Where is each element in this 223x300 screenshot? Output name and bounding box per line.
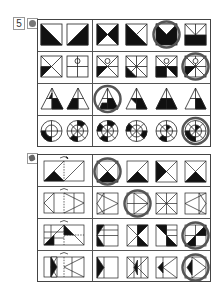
row-b4	[44, 253, 209, 281]
row-b3	[44, 221, 209, 249]
row-b1	[44, 157, 206, 185]
section-b-figures	[0, 0, 223, 300]
row-b2	[44, 189, 206, 217]
